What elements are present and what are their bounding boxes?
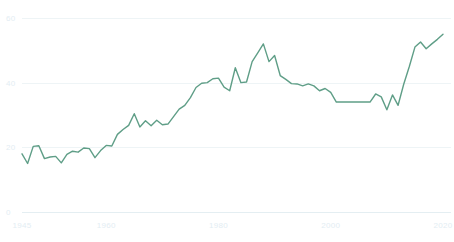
x-tick-label: 2000 (321, 221, 340, 230)
chart-canvas: 0204060 19451960198020002020 (0, 0, 454, 242)
y-tick-label: 20 (6, 143, 16, 152)
x-tick-label: 1945 (13, 221, 32, 230)
y-tick-label: 0 (6, 208, 11, 217)
y-tick-label: 60 (6, 14, 16, 23)
y-tick-label: 40 (6, 79, 16, 88)
gridlines-group (22, 19, 451, 213)
y-axis-tick-labels: 0204060 (6, 14, 16, 217)
x-axis-tick-labels: 19451960198020002020 (13, 221, 453, 230)
series-group (22, 34, 443, 163)
x-tick-label: 2020 (434, 221, 453, 230)
series-line-1 (22, 34, 443, 163)
x-tick-label: 1980 (209, 221, 228, 230)
x-tick-label: 1960 (97, 221, 116, 230)
line-chart-panel: 0204060 19451960198020002020 (0, 0, 454, 242)
